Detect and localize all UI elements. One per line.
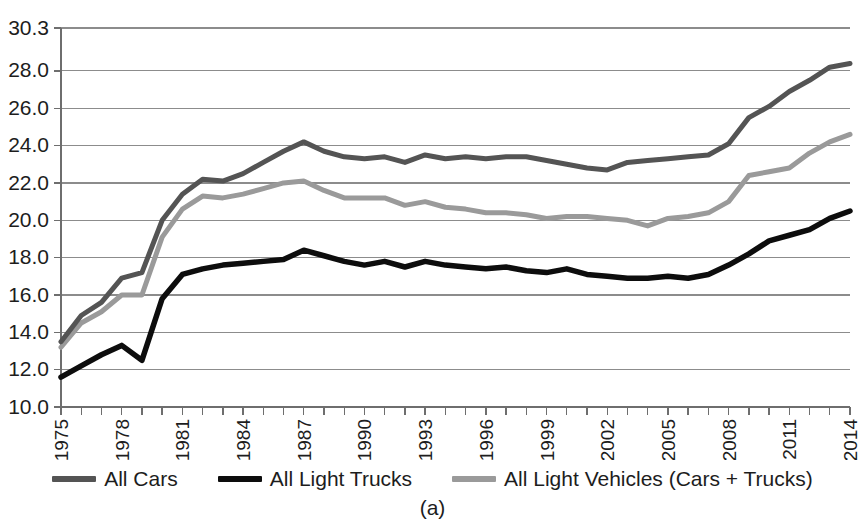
y-axis-tick-label: 18.0 bbox=[8, 245, 49, 268]
chart-plot-area: 30.328.026.024.022.020.018.016.014.012.0… bbox=[0, 0, 865, 460]
x-axis-tick-label: 1993 bbox=[415, 419, 436, 460]
legend-item-all-light-vehicles: All Light Vehicles (Cars + Trucks) bbox=[452, 467, 813, 491]
legend-swatch-all-light-vehicles bbox=[452, 476, 496, 482]
x-axis-tick-label: 1996 bbox=[476, 419, 497, 460]
x-axis-tick-label: 1999 bbox=[537, 419, 558, 460]
line-chart-svg: 30.328.026.024.022.020.018.016.014.012.0… bbox=[0, 0, 865, 460]
y-axis-tick-label: 14.0 bbox=[8, 320, 49, 343]
x-axis-tick-label: 2005 bbox=[658, 419, 679, 460]
x-axis-tick-label: 1990 bbox=[354, 419, 375, 460]
x-axis-tick-label: 2011 bbox=[779, 419, 800, 460]
y-axis-tick-label: 12.0 bbox=[8, 357, 49, 380]
x-axis-tick-label: 1978 bbox=[112, 419, 133, 460]
x-axis-tick-label: 1981 bbox=[172, 419, 193, 460]
y-axis-tick-label: 10.0 bbox=[8, 395, 49, 418]
legend-item-all-light-trucks: All Light Trucks bbox=[218, 467, 412, 491]
x-axis-tick-label: 1984 bbox=[233, 419, 254, 460]
chart-figure: 30.328.026.024.022.020.018.016.014.012.0… bbox=[0, 0, 865, 527]
y-axis-tick-label: 28.0 bbox=[8, 58, 49, 81]
x-axis-tick-label: 1987 bbox=[294, 419, 315, 460]
series-line-all-cars bbox=[61, 63, 850, 341]
x-axis-tick-label: 1975 bbox=[51, 419, 72, 460]
legend-label-all-light-trucks: All Light Trucks bbox=[270, 467, 412, 491]
y-axis-tick-label: 30.3 bbox=[8, 16, 49, 39]
y-axis-tick-label: 26.0 bbox=[8, 96, 49, 119]
figure-caption: (a) bbox=[0, 496, 865, 520]
series-line-all-light-trucks bbox=[61, 211, 850, 377]
y-axis-tick-label: 16.0 bbox=[8, 283, 49, 306]
legend-swatch-all-cars bbox=[52, 476, 96, 482]
legend-swatch-all-light-trucks bbox=[218, 476, 262, 482]
legend-label-all-light-vehicles: All Light Vehicles (Cars + Trucks) bbox=[504, 467, 813, 491]
x-axis-tick-label: 2014 bbox=[840, 419, 861, 460]
y-axis-tick-label: 24.0 bbox=[8, 133, 49, 156]
x-axis-tick-label: 2002 bbox=[597, 419, 618, 460]
chart-legend: All Cars All Light Trucks All Light Vehi… bbox=[0, 462, 865, 496]
legend-label-all-cars: All Cars bbox=[104, 467, 178, 491]
y-axis-tick-label: 20.0 bbox=[8, 208, 49, 231]
y-axis-tick-label: 22.0 bbox=[8, 171, 49, 194]
series-line-all-light-vehicles-cars-trucks bbox=[61, 134, 850, 347]
legend-item-all-cars: All Cars bbox=[52, 467, 178, 491]
x-axis-tick-label: 2008 bbox=[719, 419, 740, 460]
